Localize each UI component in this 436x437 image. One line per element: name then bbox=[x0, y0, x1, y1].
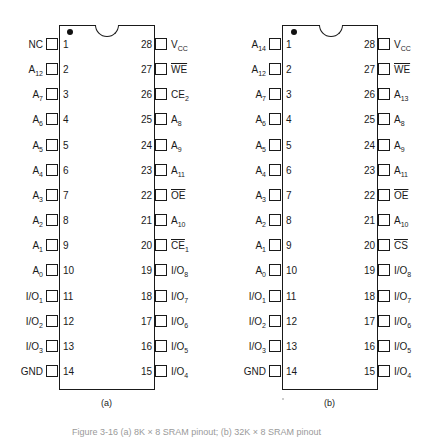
pin-number: 28 bbox=[355, 39, 375, 51]
pin-number: 6 bbox=[286, 165, 292, 177]
pin-label: VCC bbox=[394, 39, 411, 53]
pin-label: I/O6 bbox=[394, 316, 411, 330]
pin-number: 7 bbox=[286, 190, 292, 202]
pin-26 bbox=[378, 88, 390, 100]
pin-number: 2 bbox=[286, 64, 292, 76]
pin-15 bbox=[378, 365, 390, 377]
chip-b-sublabel: (b) bbox=[324, 398, 335, 408]
pin-label: WE bbox=[394, 64, 410, 78]
pin-20 bbox=[378, 239, 390, 251]
pin-number: 20 bbox=[355, 240, 375, 252]
pin-14 bbox=[269, 365, 281, 377]
pin-number: 10 bbox=[286, 265, 297, 277]
pin-label: A11 bbox=[394, 165, 408, 179]
pin-label: A10 bbox=[394, 215, 408, 229]
pin-number: 24 bbox=[355, 140, 375, 152]
pin-number: 21 bbox=[355, 215, 375, 227]
pin-number: 1 bbox=[286, 39, 292, 51]
pin-number: 17 bbox=[355, 316, 375, 328]
pin-label: A3 bbox=[226, 190, 266, 204]
pin-label: I/O4 bbox=[394, 366, 411, 380]
pin-2 bbox=[269, 63, 281, 75]
pin-number: 27 bbox=[355, 64, 375, 76]
pin-number: 15 bbox=[355, 366, 375, 378]
pin-10 bbox=[269, 264, 281, 276]
pin-number: 18 bbox=[355, 291, 375, 303]
pin-number: 19 bbox=[355, 265, 375, 277]
pin-22 bbox=[378, 189, 390, 201]
pin-number: 23 bbox=[355, 165, 375, 177]
pin-12 bbox=[269, 315, 281, 327]
pin-label: GND bbox=[226, 366, 266, 380]
pin-number: 13 bbox=[286, 341, 297, 353]
pin-8 bbox=[269, 214, 281, 226]
pin-9 bbox=[269, 239, 281, 251]
pin-label: A0 bbox=[226, 265, 266, 279]
chip-b-body bbox=[282, 25, 378, 390]
pin-number: 16 bbox=[355, 341, 375, 353]
pin-7 bbox=[269, 189, 281, 201]
scan-speck bbox=[282, 398, 284, 400]
pin-number: 12 bbox=[286, 316, 297, 328]
pin-label: CS bbox=[394, 240, 408, 254]
pin-3 bbox=[269, 88, 281, 100]
pin-label: A1 bbox=[226, 240, 266, 254]
pin-number: 8 bbox=[286, 215, 292, 227]
pin-number: 26 bbox=[355, 89, 375, 101]
figure-caption: Figure 3-16 (a) 8K × 8 SRAM pinout; (b) … bbox=[72, 427, 321, 437]
chip-b-pin1-marker-icon bbox=[291, 29, 297, 35]
pin-number: 5 bbox=[286, 140, 292, 152]
pin-label: I/O2 bbox=[226, 316, 266, 330]
pin-4 bbox=[269, 113, 281, 125]
pin-19 bbox=[378, 264, 390, 276]
pin-label: A13 bbox=[394, 89, 408, 103]
pin-number: 4 bbox=[286, 114, 292, 126]
pin-23 bbox=[378, 164, 390, 176]
pin-label: A5 bbox=[226, 140, 266, 154]
pin-number: 14 bbox=[286, 366, 297, 378]
pin-label: A12 bbox=[226, 64, 266, 78]
pin-24 bbox=[378, 139, 390, 151]
pin-number: 25 bbox=[355, 114, 375, 126]
pin-label: A8 bbox=[394, 114, 405, 128]
pin-number: 3 bbox=[286, 89, 292, 101]
pin-label: OE bbox=[394, 190, 408, 204]
pin-number: 9 bbox=[286, 240, 292, 252]
pin-label: I/O5 bbox=[394, 341, 411, 355]
pin-label: I/O7 bbox=[394, 291, 411, 305]
pin-label: I/O8 bbox=[394, 265, 411, 279]
pin-label: A14 bbox=[226, 39, 266, 53]
pin-28 bbox=[378, 38, 390, 50]
pin-21 bbox=[378, 214, 390, 226]
pin-25 bbox=[378, 113, 390, 125]
pin-label: A7 bbox=[226, 89, 266, 103]
pin-16 bbox=[378, 340, 390, 352]
pin-1 bbox=[269, 38, 281, 50]
pin-18 bbox=[378, 290, 390, 302]
pin-number: 22 bbox=[355, 190, 375, 202]
pin-label: I/O1 bbox=[226, 291, 266, 305]
pin-5 bbox=[269, 139, 281, 151]
pin-label: A6 bbox=[226, 114, 266, 128]
pin-27 bbox=[378, 63, 390, 75]
pin-11 bbox=[269, 290, 281, 302]
pin-number: 11 bbox=[286, 291, 296, 303]
pin-label: A9 bbox=[394, 140, 405, 154]
pin-17 bbox=[378, 315, 390, 327]
pin-label: I/O3 bbox=[226, 341, 266, 355]
pin-13 bbox=[269, 340, 281, 352]
pin-6 bbox=[269, 164, 281, 176]
pin-label: A2 bbox=[226, 215, 266, 229]
pin-label: A4 bbox=[226, 165, 266, 179]
